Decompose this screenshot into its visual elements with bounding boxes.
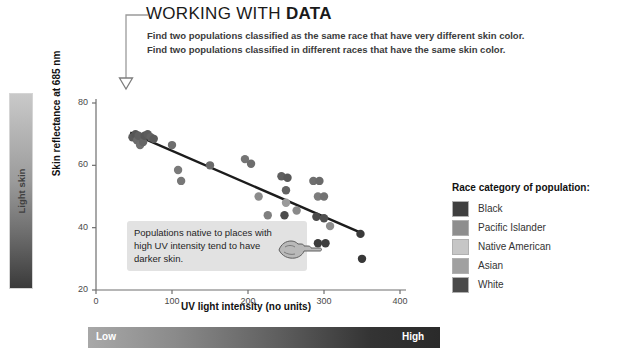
scatter-point xyxy=(315,177,323,185)
scatter-point xyxy=(282,199,290,207)
scatter-point xyxy=(168,141,176,149)
uv-low-label: Low xyxy=(96,331,116,342)
scatter-point xyxy=(280,211,288,219)
y-tick-label: 40 xyxy=(70,222,88,232)
scatter-point xyxy=(312,213,320,221)
legend-item-label: Native American xyxy=(478,241,551,252)
scatter-point xyxy=(264,211,272,219)
y-tick-label: 60 xyxy=(70,159,88,169)
scatter-point xyxy=(320,214,328,222)
annotation-text: Populations native to places with high U… xyxy=(134,226,284,265)
y-axis-title: Skin reflectance at 685 nm xyxy=(51,24,62,204)
x-tick-label: 100 xyxy=(158,296,186,306)
y-tick-label: 80 xyxy=(70,97,88,107)
pointing-hand-icon xyxy=(277,236,323,262)
uv-intensity-gradient-bar xyxy=(88,327,440,348)
scatter-point xyxy=(320,192,328,200)
legend-swatch-icon xyxy=(452,220,469,236)
legend-item-black[interactable]: Black xyxy=(452,199,612,218)
scatter-point xyxy=(356,230,364,238)
scatter-point xyxy=(282,186,290,194)
legend-swatch-icon xyxy=(452,258,469,274)
legend-item-label: Black xyxy=(478,203,502,214)
scatter-point xyxy=(358,255,366,263)
x-tick-label: 200 xyxy=(234,296,262,306)
x-tick-label: 400 xyxy=(386,296,414,306)
legend-swatch-icon xyxy=(452,277,469,293)
legend-item-label: White xyxy=(478,279,504,290)
legend-item-native-american[interactable]: Native American xyxy=(452,237,612,256)
scatter-point xyxy=(292,206,300,214)
scatter-point xyxy=(150,135,158,143)
scatter-point xyxy=(254,192,262,200)
scatter-point xyxy=(326,222,334,230)
legend-item-label: Asian xyxy=(478,260,503,271)
legend-item-white[interactable]: White xyxy=(452,275,612,294)
legend-item-asian[interactable]: Asian xyxy=(452,256,612,275)
trend-line xyxy=(130,133,363,234)
plot-canvas xyxy=(0,0,440,320)
legend-items: BlackPacific IslanderNative AmericanAsia… xyxy=(452,199,612,294)
scatter-point xyxy=(247,160,255,168)
legend-item-label: Pacific Islander xyxy=(478,222,546,233)
legend-title: Race category of population: xyxy=(452,182,612,193)
scatter-plot: Skin reflectance at 685 nm UV light inte… xyxy=(0,0,440,320)
legend-swatch-icon xyxy=(452,239,469,255)
y-tick-label: 20 xyxy=(70,284,88,294)
x-tick-label: 300 xyxy=(310,296,338,306)
legend-item-pacific-islander[interactable]: Pacific Islander xyxy=(452,218,612,237)
scatter-point xyxy=(283,174,291,182)
uv-high-label: High xyxy=(402,331,424,342)
scatter-point xyxy=(174,166,182,174)
scatter-point xyxy=(206,161,214,169)
legend-swatch-icon xyxy=(452,201,469,217)
x-tick-label: 0 xyxy=(82,296,110,306)
legend: Race category of population: BlackPacifi… xyxy=(452,182,612,294)
scatter-point xyxy=(177,177,185,185)
